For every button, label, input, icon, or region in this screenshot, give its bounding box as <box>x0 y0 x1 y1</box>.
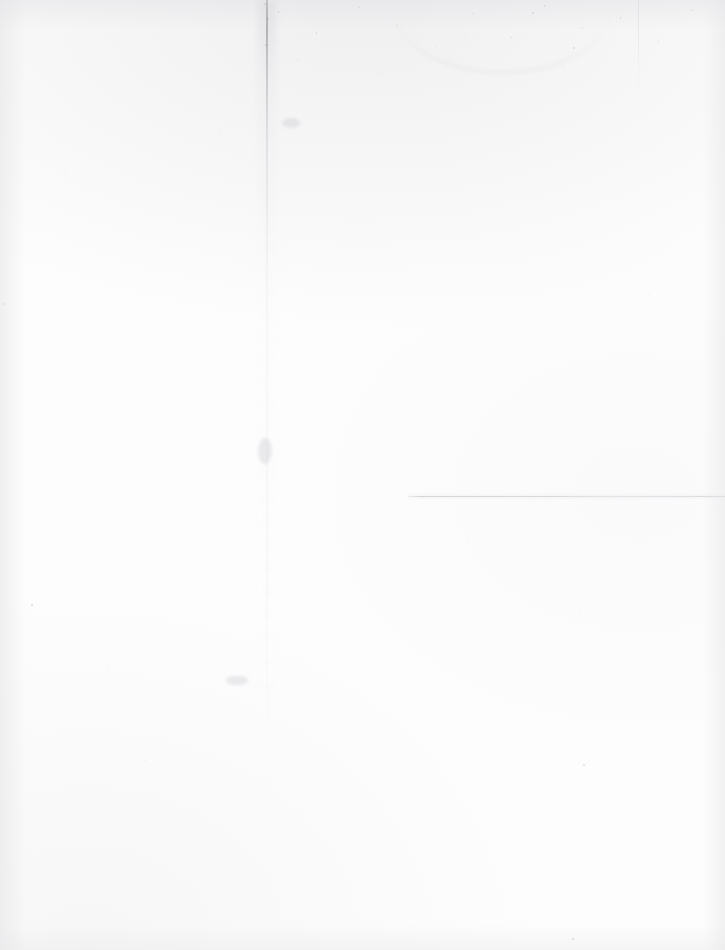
scanned-page <box>0 0 725 950</box>
paper-background <box>0 0 725 950</box>
